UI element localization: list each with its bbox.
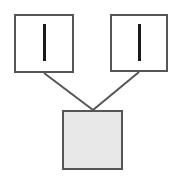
edge-top-right-to-bottom: [93, 72, 139, 110]
bottom-node-label: [64, 112, 121, 168]
edge-top-left-to-bottom: [44, 73, 93, 110]
vertical-bar-icon: [43, 24, 46, 61]
vertical-bar-icon: [138, 24, 141, 61]
diagram-canvas: [0, 0, 177, 176]
bottom-node[interactable]: [62, 110, 123, 170]
top-left-node[interactable]: [14, 14, 74, 73]
top-right-node[interactable]: [110, 14, 168, 72]
